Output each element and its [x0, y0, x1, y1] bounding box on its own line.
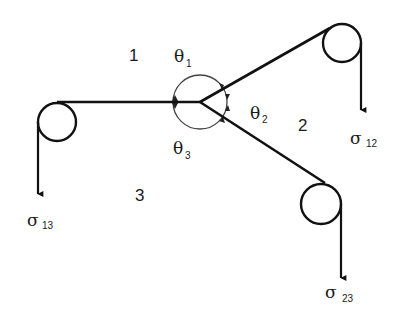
svg-text:3: 3 [185, 150, 191, 161]
svg-text:σ: σ [350, 128, 362, 148]
pulley-lower-right [301, 184, 341, 224]
svg-text:23: 23 [342, 293, 354, 304]
boundary-23 [200, 102, 341, 278]
angle-label-theta1: θ 1 [174, 46, 192, 69]
arc-arrow-right-up [225, 94, 230, 100]
svg-text:2: 2 [262, 114, 268, 125]
region-label-1: 1 [129, 46, 138, 65]
svg-text:12: 12 [366, 138, 378, 149]
angle-label-theta3: θ 3 [173, 138, 191, 161]
svg-text:θ: θ [174, 46, 184, 66]
svg-text:θ: θ [173, 138, 183, 158]
region-label-3: 3 [135, 186, 144, 205]
svg-text:1: 1 [186, 58, 192, 69]
tension-label-sigma23: σ 23 [325, 282, 354, 304]
pulley-upper-right [323, 24, 361, 62]
svg-text:σ: σ [325, 282, 337, 302]
svg-text:θ: θ [250, 103, 260, 123]
tension-label-sigma12: σ 12 [350, 128, 378, 149]
triple-junction-diagram: 1 2 3 θ 1 θ 2 θ 3 σ 12 σ 13 σ 23 [0, 0, 394, 317]
boundary-12 [200, 24, 361, 110]
pulley-left [38, 103, 76, 141]
angle-label-theta2: θ 2 [250, 103, 268, 125]
svg-text:13: 13 [42, 220, 54, 231]
region-label-2: 2 [298, 116, 307, 135]
tension-label-sigma13: σ 13 [27, 210, 54, 231]
svg-text:σ: σ [27, 210, 39, 230]
